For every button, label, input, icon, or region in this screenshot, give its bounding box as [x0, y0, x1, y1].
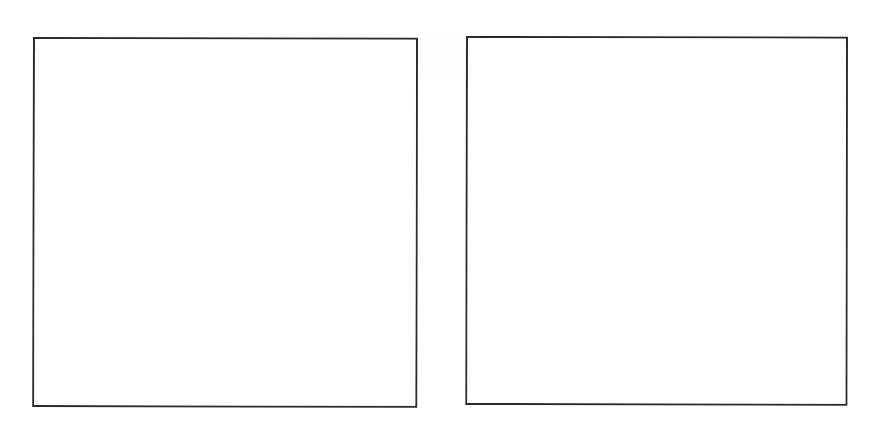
figure-frame-left: Empty framed box (left): [32, 37, 418, 408]
scanned-page: Empty framed box (left) Empty framed box…: [0, 0, 889, 421]
figure-right-alt-text: Empty framed box (right): [467, 37, 468, 38]
figure-right-content-area: Empty framed box (right): [467, 38, 846, 404]
figure-left-alt-text: Empty framed box (left): [34, 38, 35, 39]
figure-frame-right: Empty framed box (right): [465, 36, 848, 406]
figure-left-content-area: Empty framed box (left): [34, 39, 416, 406]
